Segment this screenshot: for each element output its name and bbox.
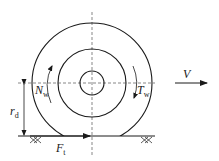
ground-hatch-right xyxy=(141,137,152,143)
velocity-label: V xyxy=(183,67,192,81)
radius-label: rd xyxy=(10,104,19,120)
wheel-diagram: V Nw Tw rd Ft xyxy=(0,0,219,161)
torque-label: Tw xyxy=(137,83,150,99)
ground-hatch-left xyxy=(30,137,41,143)
traction-force-label: Ft xyxy=(55,141,66,157)
